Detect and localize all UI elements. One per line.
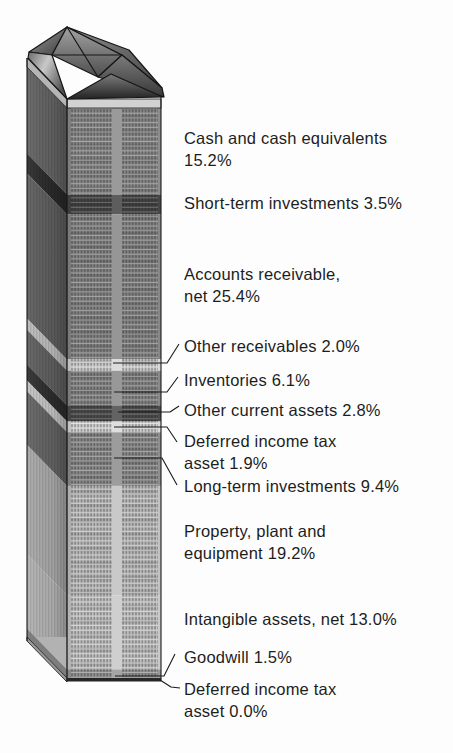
cornice-front: [67, 99, 161, 108]
front-floor-bands-0: [71, 108, 112, 678]
building-front-face: [67, 108, 161, 678]
building-side-face: [27, 67, 67, 678]
leader-line-11-deferred-income-tax-asset: [160, 680, 180, 688]
base-front-band: [67, 678, 161, 682]
front-center-spine: [112, 108, 122, 678]
building-column-chart: [0, 0, 453, 753]
front-floor-bands-1: [122, 108, 158, 678]
balance-sheet-building-figure: Cash and cash equivalents15.2%Short-term…: [0, 0, 453, 753]
side-shading: [27, 67, 67, 637]
